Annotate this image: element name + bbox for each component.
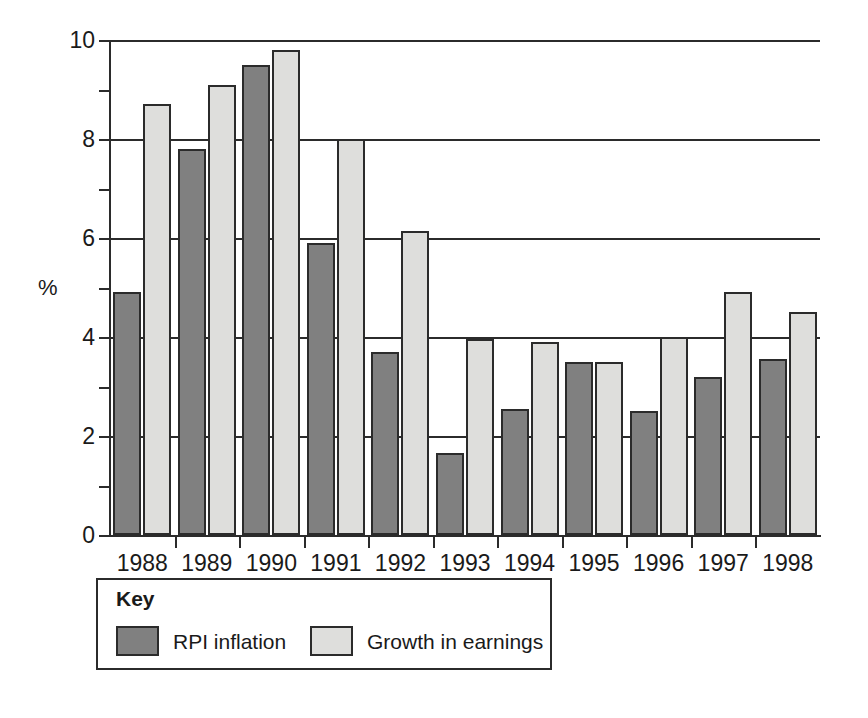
x-tick-1997 — [691, 535, 693, 548]
legend-label-growth-in-earnings: Growth in earnings — [367, 631, 543, 652]
legend-swatch-rpi-inflation — [116, 626, 159, 656]
x-axis-label-1993: 1993 — [439, 552, 490, 575]
y-tick-label-10: 10 — [69, 29, 95, 52]
bar-earn-1992 — [401, 231, 429, 535]
x-tick-1990 — [239, 535, 241, 548]
legend-entry-rpi-inflation: RPI inflation — [116, 626, 286, 656]
bar-rpi-1993 — [436, 453, 464, 535]
legend-key-box: Key RPI inflation Growth in earnings — [96, 578, 552, 670]
bar-rpi-1995 — [565, 362, 593, 535]
x-tick-1994 — [497, 535, 499, 548]
bar-rpi-1994 — [501, 409, 529, 535]
x-axis-label-1992: 1992 — [375, 552, 426, 575]
bar-earn-1998 — [789, 312, 817, 535]
x-tick-1995 — [562, 535, 564, 548]
y-tick-minor-1 — [99, 486, 110, 488]
x-tick-1996 — [626, 535, 628, 548]
bar-earn-1994 — [531, 342, 559, 535]
bar-rpi-1992 — [371, 352, 399, 535]
x-axis-label-1997: 1997 — [698, 552, 749, 575]
y-axis-title: % — [38, 277, 58, 299]
legend-title: Key — [116, 588, 155, 609]
legend-label-rpi-inflation: RPI inflation — [173, 631, 286, 652]
legend-entry-growth-in-earnings: Growth in earnings — [310, 626, 543, 656]
y-tick-minor-7 — [99, 189, 110, 191]
bar-earn-1993 — [466, 339, 494, 535]
bar-rpi-1990 — [242, 65, 270, 535]
x-axis-label-1998: 1998 — [762, 552, 813, 575]
x-tick-1993 — [433, 535, 435, 548]
bar-earn-1997 — [724, 292, 752, 535]
y-tick-8 — [99, 139, 110, 141]
y-tick-minor-9 — [99, 90, 110, 92]
bar-earn-1988 — [143, 104, 171, 535]
x-tick-1998 — [755, 535, 757, 548]
bar-rpi-1989 — [178, 149, 206, 535]
y-tick-6 — [99, 238, 110, 240]
x-axis-label-1994: 1994 — [504, 552, 555, 575]
x-axis-label-1989: 1989 — [181, 552, 232, 575]
y-tick-label-6: 6 — [82, 227, 95, 250]
y-tick-2 — [99, 436, 110, 438]
plot-area: 0246810198819891990199119921993199419951… — [110, 40, 820, 535]
y-tick-label-2: 2 — [82, 425, 95, 448]
bar-earn-1989 — [208, 85, 236, 535]
bar-rpi-1996 — [630, 411, 658, 535]
legend-swatch-growth-in-earnings — [310, 626, 353, 656]
bar-earn-1995 — [595, 362, 623, 535]
y-tick-minor-3 — [99, 387, 110, 389]
gridline-y-10 — [110, 40, 820, 42]
y-tick-10 — [99, 40, 110, 42]
x-tick-1989 — [175, 535, 177, 548]
bar-rpi-1998 — [759, 359, 787, 535]
bar-rpi-1997 — [694, 377, 722, 535]
x-axis-label-1995: 1995 — [568, 552, 619, 575]
x-axis-label-1988: 1988 — [117, 552, 168, 575]
bar-rpi-1988 — [113, 292, 141, 535]
y-tick-label-0: 0 — [82, 524, 95, 547]
bar-rpi-1991 — [307, 243, 335, 535]
bar-earn-1990 — [272, 50, 300, 535]
x-axis-label-1996: 1996 — [633, 552, 684, 575]
y-tick-label-4: 4 — [82, 326, 95, 349]
bar-chart: % 02468101988198919901991199219931994199… — [0, 0, 868, 718]
bar-earn-1991 — [337, 139, 365, 535]
y-tick-4 — [99, 337, 110, 339]
x-axis-line — [109, 535, 821, 537]
x-axis-label-1990: 1990 — [246, 552, 297, 575]
y-tick-label-8: 8 — [82, 128, 95, 151]
y-tick-minor-5 — [99, 288, 110, 290]
x-tick-1991 — [304, 535, 306, 548]
x-axis-label-1991: 1991 — [310, 552, 361, 575]
bar-earn-1996 — [660, 337, 688, 535]
y-tick-0 — [99, 535, 110, 537]
x-tick-1992 — [368, 535, 370, 548]
